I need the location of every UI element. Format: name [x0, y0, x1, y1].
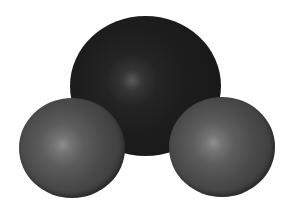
right-atom-sphere [169, 97, 275, 197]
molecule-model-scene: space-filling molecular model [0, 0, 292, 210]
left-atom-sphere [19, 98, 125, 198]
